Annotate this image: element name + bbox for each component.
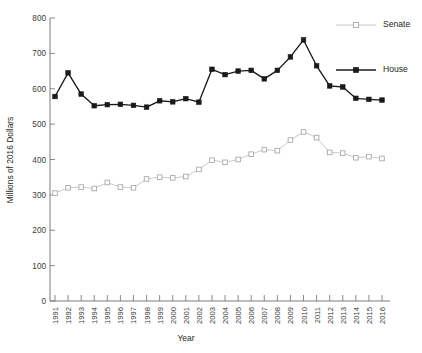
data-point-house-2010 [301, 38, 306, 43]
data-point-house-2001 [184, 96, 189, 101]
y-axis-tick-label: 300 [32, 191, 46, 200]
chart-container: 0100200300400500600700800 19911992199319… [0, 0, 422, 353]
data-point-house-2008 [275, 68, 280, 73]
data-point-senate-1997 [131, 186, 136, 191]
data-point-house-2014 [354, 96, 359, 101]
data-point-house-2004 [223, 72, 228, 77]
data-point-senate-2006 [249, 152, 254, 157]
y-axis-tick-label: 500 [32, 120, 46, 129]
y-axis: 0100200300400500600700800 [32, 14, 55, 306]
y-axis-tick-label: 200 [32, 226, 46, 235]
x-axis-tick-label: 1991 [51, 307, 60, 324]
data-point-senate-2002 [197, 167, 202, 172]
legend-label-senate: Senate [383, 19, 410, 29]
data-point-senate-1992 [66, 186, 71, 191]
x-axis-tick-label: 2008 [273, 307, 282, 324]
x-axis-tick-label: 2012 [326, 307, 335, 324]
data-point-senate-2014 [354, 155, 359, 160]
x-axis-tick-label: 2005 [234, 307, 243, 324]
data-point-senate-2001 [184, 174, 189, 179]
data-point-house-2011 [314, 63, 319, 68]
x-axis-tick-label: 1995 [103, 307, 112, 324]
data-point-house-1996 [118, 102, 123, 107]
x-axis-tick-label: 1994 [90, 307, 99, 324]
data-point-senate-2010 [301, 130, 306, 135]
data-point-house-2015 [367, 97, 372, 102]
y-axis-tick-label: 800 [32, 14, 46, 23]
data-point-senate-2005 [236, 157, 241, 162]
y-axis-tick-label: 0 [41, 297, 46, 306]
y-axis-tick-label: 700 [32, 49, 46, 58]
data-point-senate-2004 [223, 160, 228, 165]
data-point-senate-2000 [170, 176, 175, 181]
series-line-house [55, 40, 382, 107]
x-axis-tick-label: 2002 [195, 307, 204, 324]
data-point-house-1991 [53, 94, 58, 99]
x-axis-title: Year [178, 333, 195, 343]
data-point-senate-2012 [327, 150, 332, 155]
x-axis-tick-label: 2009 [286, 307, 295, 324]
data-point-house-1998 [144, 105, 149, 110]
x-axis-tick-label: 2013 [339, 307, 348, 324]
data-point-senate-1993 [79, 185, 84, 190]
data-point-senate-1999 [157, 175, 162, 180]
data-point-senate-2016 [380, 156, 385, 161]
y-axis-tick-label: 100 [32, 262, 46, 271]
data-point-senate-1996 [118, 185, 123, 190]
data-point-senate-2008 [275, 148, 280, 153]
series-line-senate [55, 132, 382, 193]
data-point-senate-2011 [314, 135, 319, 140]
x-axis-tick-label: 2006 [247, 307, 256, 324]
x-axis-tick-label: 2014 [352, 307, 361, 324]
data-point-house-1993 [79, 92, 84, 97]
data-point-house-2007 [262, 77, 267, 82]
data-point-house-1997 [131, 103, 136, 108]
x-axis-tick-label: 2007 [260, 307, 269, 324]
legend-label-house: House [383, 64, 408, 74]
x-axis: 1991199219931994199519961997199819992000… [50, 295, 390, 324]
x-axis-tick-label: 2016 [378, 307, 387, 324]
y-axis-title: Millions of 2016 Dollars [5, 117, 15, 204]
data-point-house-1995 [105, 102, 110, 107]
x-axis-tick-label: 2004 [221, 307, 230, 324]
data-series-group [53, 38, 385, 196]
legend-marker-house [353, 67, 358, 72]
x-axis-tick-label: 1996 [116, 307, 125, 324]
data-point-house-2006 [249, 68, 254, 73]
data-point-senate-1995 [105, 180, 110, 185]
legend-marker-senate [353, 22, 358, 27]
x-axis-tick-label: 1993 [77, 307, 86, 324]
data-point-house-2016 [380, 98, 385, 103]
x-axis-tick-label: 2000 [169, 307, 178, 324]
data-point-house-2003 [210, 67, 215, 72]
x-axis-tick-label: 2003 [208, 307, 217, 324]
chart-legend: SenateHouse [336, 19, 410, 74]
data-point-senate-1991 [53, 191, 58, 196]
data-point-senate-1994 [92, 186, 97, 191]
data-point-house-2005 [236, 69, 241, 74]
x-axis-tick-label: 2011 [313, 307, 322, 323]
data-point-senate-2009 [288, 138, 293, 143]
data-point-house-2002 [197, 100, 202, 105]
data-point-senate-1998 [144, 177, 149, 182]
x-axis-tick-label: 1998 [143, 307, 152, 324]
x-axis-tick-label: 2001 [182, 307, 191, 324]
line-chart: 0100200300400500600700800 19911992199319… [0, 0, 422, 353]
data-point-senate-2015 [367, 154, 372, 159]
x-axis-tick-label: 2010 [300, 307, 309, 324]
data-point-house-1999 [157, 98, 162, 103]
data-point-senate-2013 [340, 151, 345, 156]
x-axis-tick-label: 2015 [365, 307, 374, 324]
data-point-house-2012 [327, 84, 332, 89]
data-point-house-2013 [340, 85, 345, 90]
data-point-house-1992 [66, 71, 71, 76]
data-point-senate-2007 [262, 147, 267, 152]
data-point-house-2009 [288, 55, 293, 60]
y-axis-tick-label: 400 [32, 156, 46, 165]
x-axis-tick-label: 1992 [64, 307, 73, 324]
data-point-senate-2003 [210, 158, 215, 163]
data-point-house-2000 [170, 100, 175, 105]
x-axis-tick-label: 1997 [129, 307, 138, 324]
y-axis-tick-label: 600 [32, 85, 46, 94]
x-axis-tick-label: 1999 [156, 307, 165, 324]
